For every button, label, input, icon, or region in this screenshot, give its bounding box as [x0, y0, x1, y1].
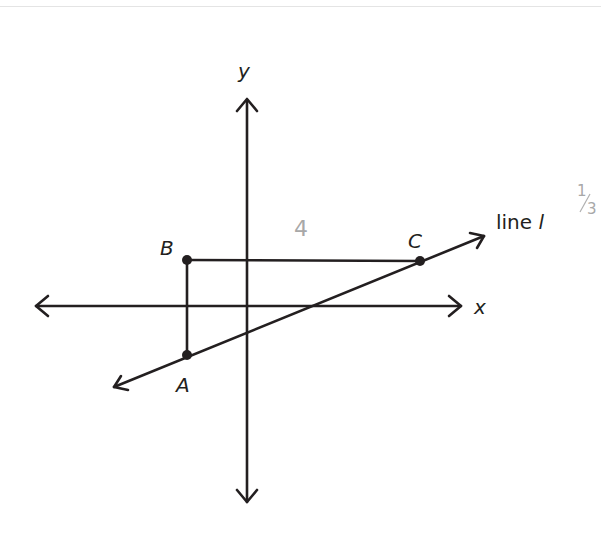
point-a-label: A — [174, 373, 190, 397]
x-axis-label: x — [473, 295, 486, 319]
handwritten-score-denominator: 3 — [587, 200, 597, 218]
handwritten-score-numerator: 1 — [577, 182, 587, 200]
point-c — [415, 256, 425, 266]
segment-bc — [187, 260, 420, 261]
y-axis-label: y — [237, 59, 251, 83]
line-l-label: line l — [496, 210, 544, 234]
point-c-label: C — [408, 229, 422, 253]
point-b — [182, 255, 192, 265]
point-a — [182, 350, 192, 360]
point-b-label: B — [160, 236, 174, 260]
coordinate-diagram: y x B C A line l 4 1 3 — [0, 0, 601, 534]
handwritten-length-annotation: 4 — [294, 216, 308, 241]
